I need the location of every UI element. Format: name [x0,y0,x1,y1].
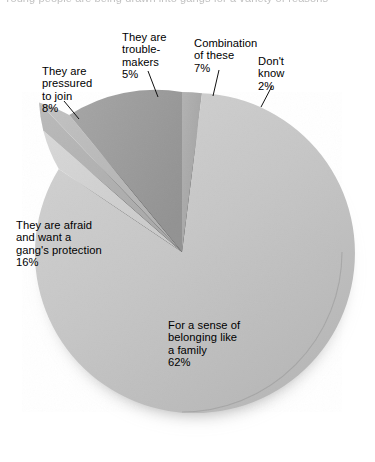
label-pressured-percent: 8% [42,102,92,115]
label-belonging: For a sense of belonging like a family 6… [168,306,240,382]
label-pressured-text: They are pressured to join [42,65,92,102]
label-dont-know: Don't know 2% [258,42,284,105]
label-pressured: They are pressured to join 8% [42,52,92,128]
label-dont-know-percent: 2% [258,80,284,93]
label-afraid-text: They are afraid and want a gang's protec… [16,219,102,256]
label-dont-know-text: Don't know [258,55,284,80]
label-afraid-percent: 16% [16,256,102,269]
label-troublemakers-text: They are trouble- makers [122,31,167,68]
chart-canvas: Young people are being drawn into gangs … [0,0,375,462]
label-belonging-percent: 62% [168,356,240,369]
label-belonging-text: For a sense of belonging like a family [168,319,240,356]
label-afraid: They are afraid and want a gang's protec… [16,206,102,282]
label-combination-text: Combination of these [194,37,257,62]
label-combination: Combination of these 7% [194,24,257,87]
label-combination-percent: 7% [194,62,257,75]
label-troublemakers: They are trouble- makers 5% [122,18,167,94]
label-troublemakers-percent: 5% [122,68,167,81]
